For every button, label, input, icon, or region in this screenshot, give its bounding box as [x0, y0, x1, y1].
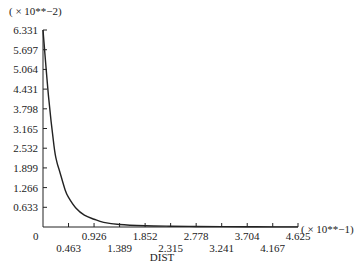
x-tick-label: 1.852 — [133, 230, 158, 242]
x-tick-label: 4.167 — [260, 242, 285, 254]
y-tick-label: 5.697 — [0, 44, 38, 56]
x-tick-label: 0.463 — [56, 242, 81, 254]
x-tick-label: 1.389 — [107, 242, 132, 254]
x-tick-label: 4.625 — [286, 230, 311, 242]
y-tick-label: 1.266 — [0, 182, 38, 194]
axes — [43, 30, 298, 227]
y-tick-label: 6.331 — [0, 24, 38, 36]
y-tick-label: 2.532 — [0, 142, 38, 154]
y-tick-label: 1.899 — [0, 162, 38, 174]
y-scale-note: ( × 10**−2) — [9, 5, 62, 17]
y-zero-label: 0 — [33, 230, 39, 242]
x-tick-label: 3.241 — [209, 242, 234, 254]
y-tick-label: 5.064 — [0, 63, 38, 75]
x-tick-label: 0.926 — [82, 230, 107, 242]
x-tick-label: 3.704 — [235, 230, 260, 242]
y-tick-label: 3.165 — [0, 123, 38, 135]
x-tick-label: 2.315 — [158, 242, 183, 254]
y-tick-label: 3.798 — [0, 103, 38, 115]
y-tick-label: 0.633 — [0, 201, 38, 213]
x-tick-label: 2.778 — [184, 230, 209, 242]
data-curve — [43, 30, 298, 227]
y-tick-label: 4.431 — [0, 83, 38, 95]
